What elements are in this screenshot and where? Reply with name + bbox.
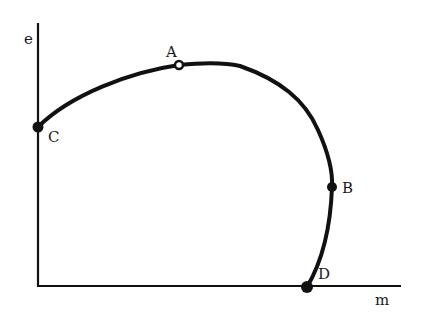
point-b-label: B	[342, 179, 353, 197]
point-a-marker	[175, 61, 183, 69]
curve	[38, 63, 332, 287]
e-axis-label: e	[24, 30, 33, 48]
point-d-label: D	[318, 265, 330, 283]
point-c-label: C	[48, 128, 59, 146]
point-b-marker	[327, 182, 337, 192]
point-d-marker	[301, 281, 313, 293]
point-c-marker	[33, 122, 44, 133]
point-a-label: A	[165, 43, 177, 61]
m-axis-label: m	[375, 291, 389, 309]
e-m-curve-diagram: e m A B C D	[0, 0, 421, 317]
